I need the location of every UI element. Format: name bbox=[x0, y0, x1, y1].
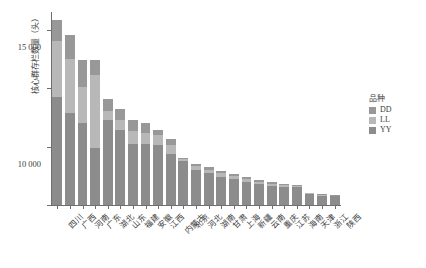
bar-segment-yy bbox=[216, 177, 226, 205]
bar-group bbox=[292, 185, 302, 205]
bar-group bbox=[254, 180, 264, 205]
bar-group bbox=[103, 99, 113, 205]
legend-swatch-icon bbox=[369, 117, 376, 124]
bar-segment-yy bbox=[279, 187, 289, 205]
x-axis-labels: 四川广西河南广东湖北山东福建安徽江西内蒙古北京河北湖南甘肃上海新疆云南重庆江苏海… bbox=[51, 205, 341, 268]
bar-group bbox=[305, 193, 315, 205]
legend-item-label: YY bbox=[380, 126, 392, 134]
bar-group bbox=[191, 164, 201, 206]
bar-group bbox=[90, 60, 100, 205]
bar-segment-dd bbox=[115, 109, 125, 120]
legend-item-label: DD bbox=[380, 106, 392, 114]
legend-items: DDLLYY bbox=[369, 106, 423, 134]
bar-segment-yy bbox=[65, 113, 75, 205]
bar-segment-dd bbox=[52, 20, 62, 41]
bar-group bbox=[52, 20, 62, 205]
bar-segment-yy bbox=[115, 130, 125, 205]
y-tick-label: 15 000 bbox=[18, 42, 41, 52]
legend-item[interactable]: LL bbox=[369, 116, 423, 124]
bar-group bbox=[65, 35, 75, 205]
bar-segment-yy bbox=[103, 120, 113, 205]
bar-segment-yy bbox=[178, 161, 188, 205]
x-tick-label: 陕西 bbox=[343, 211, 362, 230]
legend-item-label: LL bbox=[380, 116, 390, 124]
legend-title: 品种 bbox=[369, 92, 423, 103]
stacked-bar-chart: 核心群存栏数量（头） 05 00010 00015 000 四川广西河南广东湖北… bbox=[0, 0, 426, 268]
bar-segment-yy bbox=[204, 173, 214, 205]
legend: 品种 DDLLYY bbox=[369, 92, 423, 136]
bar-group bbox=[229, 174, 239, 205]
bar-segment-ll bbox=[52, 41, 62, 97]
bar-segment-yy bbox=[191, 170, 201, 205]
bar-segment-yy bbox=[305, 194, 315, 205]
bar-group bbox=[141, 123, 151, 205]
bar-segment-yy bbox=[141, 144, 151, 205]
bar-group bbox=[153, 130, 163, 205]
bar-group bbox=[267, 182, 277, 205]
bar-segment-yy bbox=[128, 144, 138, 205]
bar-segment-ll bbox=[166, 145, 176, 153]
bar-segment-yy bbox=[242, 182, 252, 205]
bar-segment-yy bbox=[317, 196, 327, 205]
bar-segment-ll bbox=[153, 135, 163, 146]
bar-group bbox=[330, 195, 340, 205]
bar-group bbox=[204, 167, 214, 205]
bar-segment-yy bbox=[78, 123, 88, 205]
bar-segment-yy bbox=[90, 148, 100, 205]
bar-segment-ll bbox=[78, 87, 88, 123]
bar-segment-ll bbox=[65, 59, 75, 113]
bar-group bbox=[115, 109, 125, 205]
bar-segment-dd bbox=[141, 123, 151, 132]
bar-segment-yy bbox=[153, 145, 163, 205]
bar-segment-ll bbox=[103, 111, 113, 119]
bar-group bbox=[166, 139, 176, 205]
bar-group bbox=[317, 194, 327, 205]
bars-layer bbox=[51, 12, 341, 205]
legend-item[interactable]: YY bbox=[369, 126, 423, 134]
y-axis-title: 核心群存栏数量（头） bbox=[29, 0, 40, 134]
bar-group bbox=[178, 158, 188, 205]
bar-segment-dd bbox=[103, 99, 113, 112]
bar-segment-yy bbox=[330, 196, 340, 205]
legend-swatch-icon bbox=[369, 107, 376, 114]
bar-segment-yy bbox=[166, 154, 176, 205]
bar-group bbox=[128, 120, 138, 205]
bar-segment-yy bbox=[229, 179, 239, 205]
bar-segment-dd bbox=[90, 60, 100, 75]
bar-segment-yy bbox=[254, 184, 264, 205]
plot-area: 05 00010 00015 000 bbox=[51, 12, 341, 205]
legend-item[interactable]: DD bbox=[369, 106, 423, 114]
bar-group bbox=[78, 60, 88, 205]
bar-segment-dd bbox=[65, 35, 75, 58]
bar-group bbox=[242, 177, 252, 205]
bar-group bbox=[216, 171, 226, 205]
bar-group bbox=[279, 184, 289, 205]
y-tick-label: 10 000 bbox=[18, 159, 41, 169]
legend-swatch-icon bbox=[369, 127, 376, 134]
bar-segment-yy bbox=[292, 187, 302, 205]
bar-segment-ll bbox=[115, 120, 125, 131]
bar-segment-ll bbox=[90, 75, 100, 148]
bar-segment-ll bbox=[128, 131, 138, 144]
bar-segment-yy bbox=[52, 97, 62, 205]
bar-segment-dd bbox=[128, 120, 138, 132]
bar-segment-yy bbox=[267, 186, 277, 205]
bar-segment-dd bbox=[78, 60, 88, 87]
bar-segment-ll bbox=[141, 133, 151, 145]
